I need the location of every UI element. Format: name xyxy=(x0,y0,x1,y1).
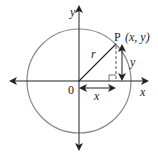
y-segment-label: y xyxy=(129,55,136,69)
radius-line xyxy=(79,44,116,81)
radius-label: r xyxy=(91,47,96,61)
origin-label: 0 xyxy=(68,83,74,97)
y-axis-label: y xyxy=(69,5,76,19)
point-coords-label: (x, y) xyxy=(125,30,150,44)
x-axis-label: x xyxy=(139,85,146,99)
point-p-label: P xyxy=(114,30,121,44)
right-angle-marker xyxy=(109,75,116,81)
x-segment-label: x xyxy=(93,89,100,103)
unit-circle-diagram: y x 0 r P (x, y) x y xyxy=(0,0,158,157)
